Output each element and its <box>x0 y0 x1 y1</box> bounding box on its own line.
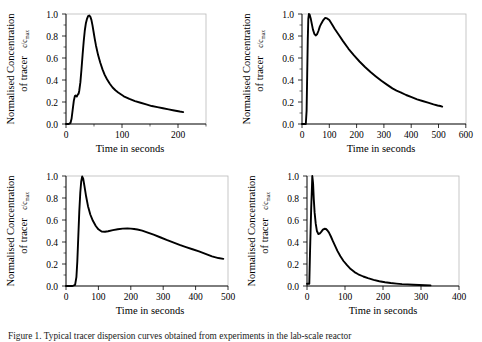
y-axis-title-line1: Normalised Concentration <box>5 13 16 125</box>
y-tick-1: 0.2 <box>282 98 294 108</box>
y-tick-4: 0.8 <box>46 194 58 204</box>
y-tick-5: 1.0 <box>282 10 294 20</box>
y-axis-title-line1: Normalised Concentration <box>241 13 252 125</box>
x-tick-3: 300 <box>414 292 429 302</box>
x-tick-3: 300 <box>156 292 171 302</box>
x-axis-title: Time in seconds <box>349 305 417 316</box>
x-tick-1: 100 <box>322 130 337 140</box>
x-tick-2: 200 <box>171 130 186 140</box>
x-tick-0: 0 <box>64 292 69 302</box>
y-tick-0: 0.0 <box>287 282 299 292</box>
plot-area-top-left <box>62 14 206 128</box>
x-tick-2: 200 <box>349 130 364 140</box>
x-tick-2: 200 <box>124 292 139 302</box>
tracer-curve-bottom-right <box>307 176 431 285</box>
y-axis-symbol: c/cmax <box>257 30 266 48</box>
chart-svg-top-left: 0.0 0.2 0.4 0.6 0.8 1.0 0 100 200 Time i… <box>0 2 241 164</box>
x-tick-3: 300 <box>377 130 392 140</box>
y-tick-1: 0.2 <box>46 98 58 108</box>
chart-svg-bottom-left: 0.0 0.2 0.4 0.6 0.8 1.0 0 100 200 300 40… <box>0 166 241 326</box>
x-tick-5: 500 <box>221 292 236 302</box>
chart-panel-top-left: 0.0 0.2 0.4 0.6 0.8 1.0 0 100 200 Time i… <box>0 2 241 164</box>
x-tick-5: 500 <box>431 130 446 140</box>
x-tick-4: 400 <box>452 292 467 302</box>
x-tick-4: 400 <box>404 130 419 140</box>
axis-labels-bottom-left: 0.0 0.2 0.4 0.6 0.8 1.0 0 100 200 300 40… <box>5 172 235 317</box>
y-axis-title-line2: of tracer <box>18 218 29 254</box>
y-tick-2: 0.4 <box>46 76 58 86</box>
y-tick-5: 1.0 <box>46 10 58 20</box>
x-tick-1: 100 <box>115 130 130 140</box>
y-tick-2: 0.4 <box>287 238 299 248</box>
y-ticks-top-left <box>62 14 66 124</box>
y-axis-symbol: c/cmax <box>21 30 30 48</box>
y-tick-5: 1.0 <box>46 172 58 182</box>
x-ticks-top-right <box>302 124 466 128</box>
axis-labels-top-right: 0.0 0.2 0.4 0.6 0.8 1.0 0 100 200 300 40… <box>241 10 473 155</box>
x-tick-0: 0 <box>300 130 305 140</box>
y-tick-0: 0.0 <box>46 282 58 292</box>
plot-area-bottom-left <box>62 176 228 290</box>
y-tick-0: 0.0 <box>46 120 58 130</box>
y-axis-title-line2: of tracer <box>254 56 265 92</box>
y-tick-3: 0.6 <box>46 216 58 226</box>
x-tick-0: 0 <box>305 292 310 302</box>
x-tick-2: 200 <box>376 292 391 302</box>
y-tick-2: 0.4 <box>282 76 294 86</box>
x-ticks-bottom-right <box>307 286 459 290</box>
x-ticks-top-left <box>66 124 206 128</box>
y-tick-1: 0.2 <box>287 260 299 270</box>
y-tick-4: 0.8 <box>287 194 299 204</box>
y-axis-symbol: c/cmax <box>262 192 271 210</box>
x-axis-title: Time in seconds <box>96 143 164 154</box>
y-axis-title-line1: Normalised Concentration <box>5 175 16 287</box>
chart-svg-bottom-right: 0.0 0.2 0.4 0.6 0.8 1.0 0 100 200 300 40… <box>241 166 482 326</box>
y-tick-4: 0.8 <box>282 32 294 42</box>
y-axis-title-line2: of tracer <box>259 218 270 254</box>
y-ticks-bottom-right <box>303 176 307 286</box>
chart-panel-top-right: 0.0 0.2 0.4 0.6 0.8 1.0 0 100 200 300 40… <box>241 2 482 164</box>
y-axis-symbol: c/cmax <box>21 192 30 210</box>
figure-panel-grid: 0.0 0.2 0.4 0.6 0.8 1.0 0 100 200 Time i… <box>0 0 482 342</box>
chart-svg-top-right: 0.0 0.2 0.4 0.6 0.8 1.0 0 100 200 300 40… <box>241 2 482 164</box>
x-axis-title: Time in seconds <box>116 305 184 316</box>
y-tick-1: 0.2 <box>46 260 58 270</box>
chart-panel-bottom-left: 0.0 0.2 0.4 0.6 0.8 1.0 0 100 200 300 40… <box>0 166 241 326</box>
y-tick-5: 1.0 <box>287 172 299 182</box>
tracer-curve-top-left <box>66 16 183 125</box>
chart-panel-bottom-right: 0.0 0.2 0.4 0.6 0.8 1.0 0 100 200 300 40… <box>241 166 482 326</box>
y-tick-3: 0.6 <box>282 54 294 64</box>
y-axis-title-line2: of tracer <box>18 56 29 92</box>
x-tick-1: 100 <box>338 292 353 302</box>
plot-area-bottom-right <box>303 176 459 290</box>
y-tick-3: 0.6 <box>46 54 58 64</box>
y-tick-4: 0.8 <box>46 32 58 42</box>
x-tick-1: 100 <box>91 292 106 302</box>
x-ticks-bottom-left <box>66 286 228 290</box>
y-tick-3: 0.6 <box>287 216 299 226</box>
x-tick-4: 400 <box>188 292 203 302</box>
x-tick-0: 0 <box>64 130 69 140</box>
tracer-curve-bottom-left <box>66 177 223 286</box>
tracer-curve-top-right <box>302 14 442 124</box>
x-tick-6: 600 <box>459 130 474 140</box>
y-tick-2: 0.4 <box>46 238 58 248</box>
y-axis-title-line1: Normalised Concentration <box>246 175 257 287</box>
plot-area-top-right <box>298 14 466 128</box>
y-ticks-bottom-left <box>62 176 66 286</box>
y-ticks-top-right <box>298 14 302 124</box>
x-axis-title: Time in seconds <box>347 143 415 154</box>
axis-labels-bottom-right: 0.0 0.2 0.4 0.6 0.8 1.0 0 100 200 300 40… <box>246 172 466 317</box>
y-tick-0: 0.0 <box>282 120 294 130</box>
axis-labels-top-left: 0.0 0.2 0.4 0.6 0.8 1.0 0 100 200 Time i… <box>5 10 185 155</box>
figure-caption: Figure 1. Typical tracer dispersion curv… <box>8 331 474 342</box>
